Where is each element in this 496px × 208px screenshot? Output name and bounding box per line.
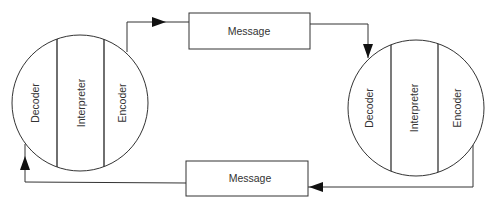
connector-left-to-top-message <box>127 17 189 52</box>
decoder-label: Decoder <box>363 88 375 128</box>
connector-top-message-to-right <box>310 24 373 58</box>
arrow-right-icon <box>152 17 166 27</box>
decoder-label: Decoder <box>29 83 41 123</box>
message-box-top: Message <box>189 13 310 49</box>
communication-diagram: Decoder Interpreter Encoder Decoder Inte… <box>0 0 496 208</box>
message-box-bottom: Message <box>186 161 308 196</box>
encoder-label: Encoder <box>116 83 128 123</box>
communicator-left: Decoder Interpreter Encoder <box>12 30 148 180</box>
interpreter-label: Interpreter <box>408 83 420 132</box>
arrow-down-icon <box>363 44 373 58</box>
encoder-label: Encoder <box>451 88 463 128</box>
arrow-up-icon <box>20 156 30 170</box>
message-label: Message <box>229 172 272 184</box>
interpreter-label: Interpreter <box>75 78 87 127</box>
arrow-left-icon <box>309 182 323 192</box>
message-label: Message <box>228 25 271 37</box>
